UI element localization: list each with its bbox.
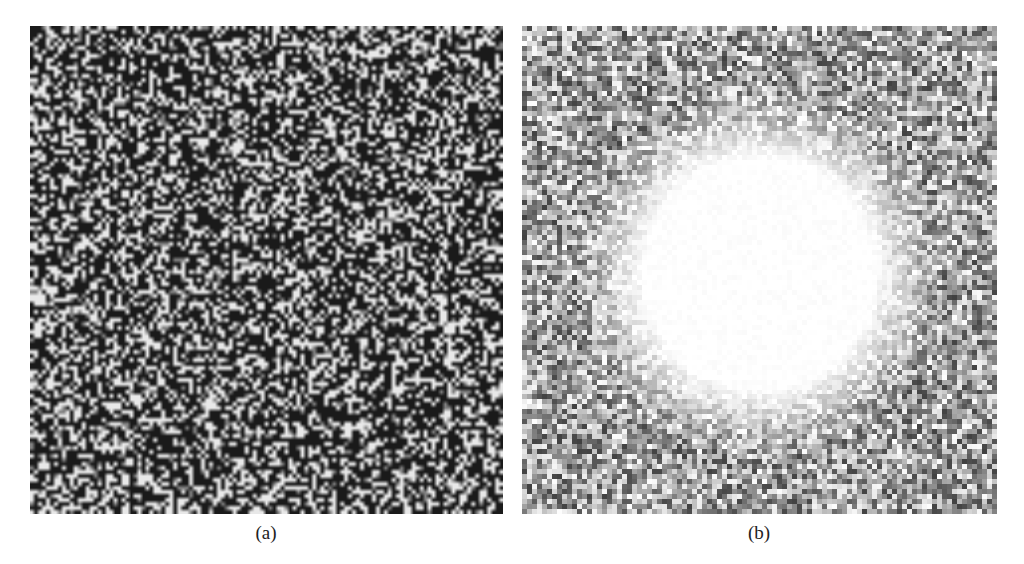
- speckle-pattern-image: [30, 26, 503, 514]
- bright-spot-image: [522, 26, 997, 514]
- panel-a-caption: (a): [236, 521, 296, 545]
- figure: (a) (b): [0, 0, 1024, 564]
- speckle-canvas: [30, 26, 503, 514]
- panel-b-caption: (b): [729, 521, 789, 545]
- bright-spot-canvas: [522, 26, 997, 514]
